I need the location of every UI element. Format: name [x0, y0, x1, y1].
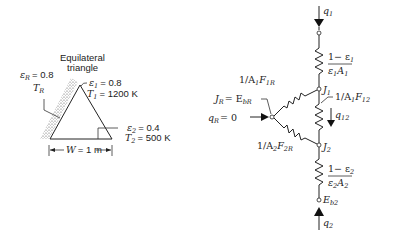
resistor-12	[315, 104, 323, 130]
diagram-canvas: Equilateral triangle εR= 0.8 TR ε1= 0.8 …	[0, 0, 394, 241]
surface-r-shading	[40, 78, 78, 139]
node-j1	[317, 87, 321, 91]
node-jr	[270, 115, 274, 119]
svg-text:1− ε2: 1− ε2	[328, 163, 354, 176]
svg-text:ε1A1: ε1A1	[328, 65, 348, 78]
r12-label: 1/A1F12	[335, 91, 370, 104]
q1-arrow-icon	[314, 19, 324, 27]
r1-label: 1− ε1 ε1A1	[328, 51, 354, 78]
jr-label: JR= EbR	[213, 93, 252, 106]
q1-label: q1	[323, 5, 333, 18]
q12-arrow-icon	[327, 120, 335, 127]
svg-text:1− ε1: 1− ε1	[328, 51, 354, 64]
q12-label: q12	[335, 109, 349, 122]
qr-arrow-icon	[261, 113, 269, 121]
node-eb1	[317, 31, 321, 35]
resistor-surface-1	[315, 48, 323, 74]
t-r-label: TR	[33, 82, 44, 95]
node-eb2	[317, 198, 321, 202]
width-label: W= 1 m	[66, 144, 102, 155]
r2-label: 1− ε2 ε2A2	[328, 163, 354, 190]
resistor-1r	[274, 90, 317, 116]
r2r-label: 1/A2F2R	[257, 140, 293, 153]
svg-text:ε2A2: ε2A2	[328, 177, 348, 190]
eb2-label: Eb2	[322, 194, 338, 207]
node-j2	[317, 143, 321, 147]
j1-label: J1	[321, 84, 331, 97]
qr-label: qR= 0	[208, 112, 237, 125]
epsilon-r-label: εR= 0.8	[20, 69, 53, 82]
surface-1-leader	[81, 83, 87, 86]
resistor-surface-2	[315, 159, 323, 185]
surface-2-marker	[98, 128, 118, 139]
r1r-label: 1/A1F1R	[239, 74, 275, 87]
q2-arrow-icon	[314, 207, 324, 216]
j2-label: J2	[321, 141, 331, 154]
q2-label: q2	[323, 217, 333, 230]
caption-line-2: triangle	[67, 62, 98, 73]
